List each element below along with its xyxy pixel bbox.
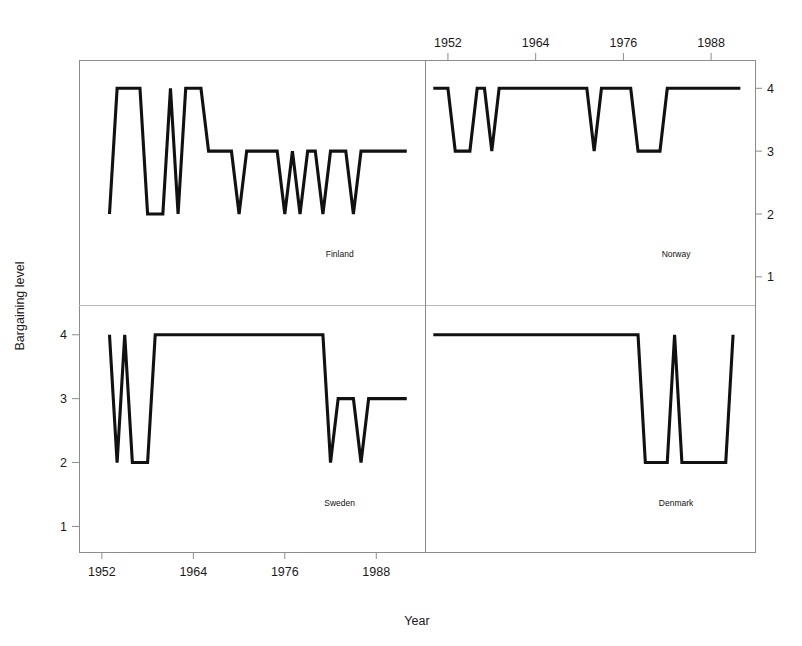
series-line-denmark bbox=[433, 335, 733, 463]
panel-label-norway: Norway bbox=[662, 249, 692, 259]
y-axis-title: Bargaining level bbox=[13, 262, 27, 351]
trellis-panel-chart: 1122334419521952196419641976197619881988… bbox=[0, 0, 802, 646]
y-tick-label-right-2: 2 bbox=[767, 208, 774, 222]
x-tick-label-top-1976: 1976 bbox=[609, 36, 637, 50]
y-tick-label-right-3: 3 bbox=[767, 145, 774, 159]
x-tick-label-bottom-1964: 1964 bbox=[179, 565, 207, 579]
series-line-sweden bbox=[109, 335, 406, 463]
x-tick-label-top-1952: 1952 bbox=[434, 36, 462, 50]
x-axis-title: Year bbox=[404, 614, 429, 628]
chart-figure: 1122334419521952196419641976197619881988… bbox=[0, 0, 802, 646]
y-tick-label-right-1: 1 bbox=[767, 270, 774, 284]
series-line-norway bbox=[433, 88, 740, 151]
x-tick-label-bottom-1976: 1976 bbox=[271, 565, 299, 579]
x-tick-label-bottom-1988: 1988 bbox=[362, 565, 390, 579]
y-tick-label-right-4: 4 bbox=[767, 82, 774, 96]
plot-frame bbox=[80, 61, 756, 553]
y-tick-label-left-2: 2 bbox=[60, 456, 67, 470]
x-tick-label-top-1988: 1988 bbox=[697, 36, 725, 50]
panel-label-finland: Finland bbox=[326, 249, 354, 259]
panel-label-sweden: Sweden bbox=[324, 498, 355, 508]
y-tick-label-left-4: 4 bbox=[60, 328, 67, 342]
panel-label-denmark: Denmark bbox=[659, 498, 694, 508]
y-tick-label-left-3: 3 bbox=[60, 392, 67, 406]
series-line-finland bbox=[109, 88, 406, 214]
x-tick-label-top-1964: 1964 bbox=[522, 36, 550, 50]
x-tick-label-bottom-1952: 1952 bbox=[88, 565, 116, 579]
y-tick-label-left-1: 1 bbox=[60, 520, 67, 534]
